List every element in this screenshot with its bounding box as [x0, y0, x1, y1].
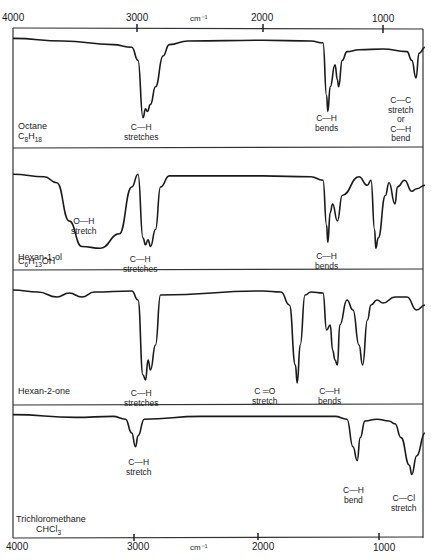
- annot-hexanone-ch-stretches: C—H stretches: [124, 389, 159, 408]
- panel-octane-name: Octane: [18, 121, 47, 131]
- annot-hexanol-oh-stretch: O—H stretch: [71, 217, 97, 236]
- annot-hexanone-co-stretch: C ═O stretch: [252, 387, 278, 406]
- spectrum-trace-octane: [13, 38, 425, 117]
- panel-octane-formula: C8H18: [18, 131, 42, 145]
- panel-hexanol-formula: C6H13OH: [18, 256, 55, 270]
- panel-chcl3-name: Trichloromethane: [16, 514, 86, 524]
- annot-chcl3-ccl-stretch: C—Cl stretch: [391, 494, 417, 513]
- spectrum-trace-hexan-1-ol: [13, 174, 425, 248]
- annot-octane-cc-stretch: C—C stretch or C—H bend: [388, 96, 414, 144]
- spectrum-trace-trichloromethane: [13, 415, 425, 475]
- spectrum-traces: [13, 38, 425, 474]
- annot-hexanol-ch-stretches: C—H stretches: [123, 255, 158, 274]
- axis-ticks: [134, 24, 383, 541]
- panel-chcl3-formula: CHCl3: [36, 524, 61, 538]
- panel-hexanone-name: Hexan-2-one: [18, 386, 70, 396]
- annot-hexanone-ch-bends: C—H bends: [318, 387, 341, 406]
- annot-chcl3-ch-stretch: C—H stretch: [126, 458, 152, 477]
- chart-frame: [13, 28, 423, 538]
- annot-octane-ch-bends: C—H bends: [315, 114, 338, 133]
- spectrum-trace-hexan-2-one: [13, 290, 425, 383]
- annot-octane-ch-stretches: C—H stretches: [124, 123, 159, 142]
- ir-spectra-plot: [0, 0, 431, 560]
- annot-hexanol-ch-bends: C—H bends: [315, 252, 338, 271]
- annot-chcl3-ch-bend: C—H bend: [343, 486, 364, 505]
